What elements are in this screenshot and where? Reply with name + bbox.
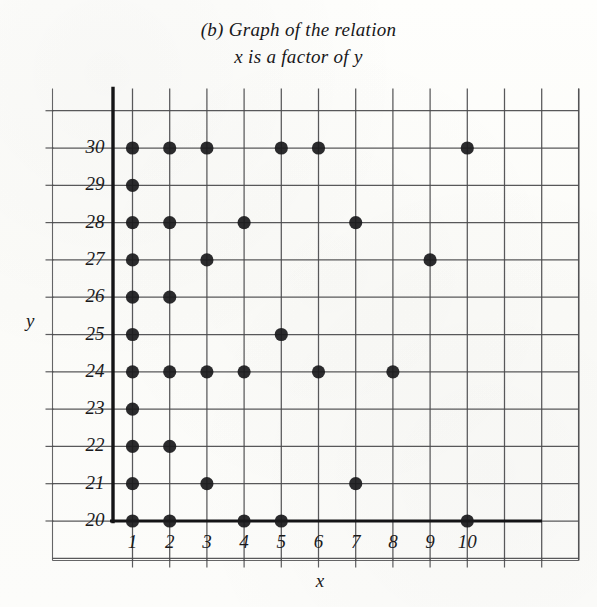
data-point-dot: [312, 141, 325, 154]
x-tick-label-6: 6: [302, 532, 336, 551]
data-point-dot: [200, 141, 213, 154]
data-point-dot: [461, 514, 474, 527]
data-point-dot: [126, 514, 139, 527]
data-point-dot: [238, 514, 251, 527]
data-point-dot: [349, 216, 362, 229]
x-tick-label-2: 2: [153, 532, 187, 551]
axis-lines: [112, 89, 541, 522]
y-axis-name: y: [26, 310, 34, 332]
data-point-dot: [126, 216, 139, 229]
y-tick-label-26: 26: [61, 286, 105, 305]
data-point-dot: [126, 253, 139, 266]
data-point-dot: [200, 365, 213, 378]
data-point-dot: [163, 291, 176, 304]
data-point-dot: [126, 291, 139, 304]
x-tick-label-8: 8: [376, 532, 410, 551]
data-point-dot: [126, 403, 139, 416]
y-tick-label-27: 27: [61, 249, 105, 268]
data-point-dot: [163, 216, 176, 229]
x-tick-label-9: 9: [413, 532, 447, 551]
x-tick-label-7: 7: [339, 532, 373, 551]
y-tick-label-25: 25: [61, 324, 105, 343]
y-tick-label-21: 21: [61, 473, 105, 492]
data-point-dot: [163, 514, 176, 527]
graph-page: (b) Graph of the relation x is a factor …: [0, 0, 597, 607]
x-axis-name: x: [305, 570, 335, 592]
data-point-dot: [275, 141, 288, 154]
data-point-dot: [126, 477, 139, 490]
x-tick-label-10: 10: [450, 532, 484, 551]
y-tick-label-30: 30: [61, 137, 105, 156]
y-tick-label-24: 24: [61, 361, 105, 380]
x-tick-label-5: 5: [264, 532, 298, 551]
data-point-dot: [238, 365, 251, 378]
y-tick-label-22: 22: [61, 435, 105, 454]
x-tick-label-3: 3: [190, 532, 224, 551]
data-point-dot: [126, 179, 139, 192]
data-point-dot: [461, 141, 474, 154]
x-tick-label-1: 1: [116, 532, 150, 551]
data-point-dot: [238, 216, 251, 229]
y-tick-label-28: 28: [61, 212, 105, 231]
data-point-dot: [275, 328, 288, 341]
data-point-dot: [126, 141, 139, 154]
data-point-dot: [163, 440, 176, 453]
y-tick-label-29: 29: [61, 174, 105, 193]
data-point-dot: [126, 328, 139, 341]
data-point-dot: [424, 253, 437, 266]
data-point-dot: [349, 477, 362, 490]
data-point-dot: [200, 477, 213, 490]
data-point-dot: [312, 365, 325, 378]
data-point-dot: [163, 365, 176, 378]
data-point-dot: [126, 365, 139, 378]
data-point-dot: [275, 514, 288, 527]
data-point-dot: [200, 253, 213, 266]
y-tick-label-23: 23: [61, 398, 105, 417]
x-tick-label-4: 4: [227, 532, 261, 551]
data-point-dot: [386, 365, 399, 378]
y-tick-label-20: 20: [61, 510, 105, 529]
data-point-dot: [126, 440, 139, 453]
data-point-dot: [163, 141, 176, 154]
